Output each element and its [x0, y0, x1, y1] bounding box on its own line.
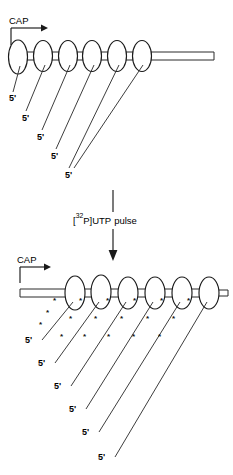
nucleosome — [108, 41, 127, 72]
nucleosome — [199, 277, 219, 309]
pulse-chase-diagram: CAP — [0, 0, 233, 475]
radiolabel-asterisk: * — [120, 314, 124, 323]
radiolabel-asterisk: * — [94, 314, 98, 323]
label-5prime-top-1: 5' — [9, 93, 16, 103]
transcript-line — [115, 302, 207, 457]
transcript-line — [56, 65, 94, 149]
radiolabel-asterisk: * — [39, 320, 43, 329]
nucleosome — [9, 40, 28, 74]
label-5prime-bottom-6: 5' — [98, 452, 105, 462]
panel-before-pulse: CAP — [9, 15, 215, 180]
transcript-line — [74, 65, 143, 168]
nucleosome — [59, 41, 78, 72]
transcript-line — [71, 302, 126, 386]
label-5prime-top-3: 5' — [37, 132, 44, 142]
transcript-group-top — [13, 65, 143, 168]
pulse-label: [32P]UTPpulse — [73, 211, 137, 226]
radiolabel-asterisk: * — [172, 314, 176, 323]
label-5prime-bottom-5: 5' — [82, 427, 89, 437]
nucleosome — [83, 41, 102, 72]
pulse-label-nucleotide: UTP — [92, 215, 111, 226]
radiolabel-asterisk: * — [46, 308, 50, 317]
radiolabel-asterisk: * — [158, 332, 162, 341]
radiolabel-asterisk: * — [83, 332, 87, 341]
nucleosome-group-bottom — [65, 275, 219, 310]
figure-root: CAP — [0, 0, 233, 475]
arrow-head-down — [109, 250, 118, 261]
radiolabel-asterisk: * — [107, 332, 111, 341]
transcript-line — [42, 65, 70, 130]
transcript-group-bottom — [42, 302, 207, 457]
pulse-arrow-group: [32P]UTPpulse — [73, 190, 137, 261]
label-5prime-bottom-3: 5' — [54, 381, 61, 391]
nucleosome-group-top — [9, 40, 152, 74]
transcript-line — [99, 302, 180, 432]
label-5prime-bottom-1: 5' — [25, 335, 32, 345]
radiolabel-asterisk: * — [60, 332, 64, 341]
cap-label-bottom: CAP — [17, 254, 37, 265]
label-5prime-top-4: 5' — [51, 151, 58, 161]
radiolabel-asterisk: * — [146, 314, 150, 323]
cap-arrow-bottom — [20, 264, 51, 283]
cap-label-top: CAP — [9, 15, 29, 26]
radiolabel-asterisk: * — [132, 332, 136, 341]
label-5prime-bottom-2: 5' — [38, 358, 45, 368]
pulse-label-word: pulse — [114, 215, 137, 226]
label-5prime-bottom-4: 5' — [69, 404, 76, 414]
panel-after-pulse: CAP — [17, 254, 228, 462]
radiolabel-asterisk: * — [69, 314, 73, 323]
transcript-line — [26, 65, 45, 111]
nucleosome — [34, 41, 53, 72]
label-5prime-top-2: 5' — [22, 113, 29, 123]
label-5prime-top-5: 5' — [65, 170, 72, 180]
transcript-line — [69, 65, 119, 168]
